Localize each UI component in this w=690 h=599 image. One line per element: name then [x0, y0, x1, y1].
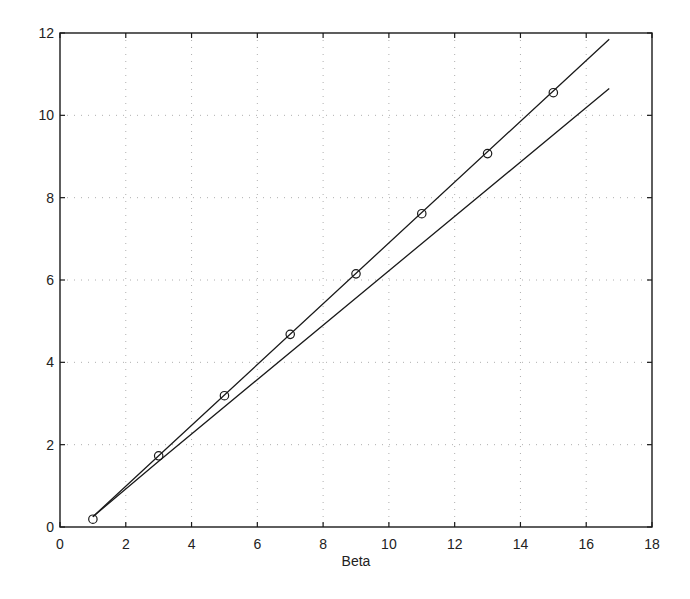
x-tick-label: 0: [56, 536, 64, 552]
x-axis-label: Beta: [342, 553, 371, 569]
y-tick-label: 4: [46, 354, 54, 370]
x-tick-label: 6: [253, 536, 261, 552]
data-point-marker: [549, 88, 557, 96]
grid-lines: [60, 33, 652, 527]
x-tick-label: 8: [319, 536, 327, 552]
x-tick-label: 2: [122, 536, 130, 552]
y-tick-label: 10: [38, 107, 54, 123]
x-tick-label: 18: [644, 536, 660, 552]
series-line: [93, 89, 609, 517]
x-tick-label: 14: [513, 536, 529, 552]
y-tick-label: 6: [46, 272, 54, 288]
axes: [60, 33, 652, 527]
x-tick-label: 4: [188, 536, 196, 552]
series-line: [93, 39, 609, 517]
y-tick-label: 8: [46, 190, 54, 206]
y-tick-label: 12: [38, 25, 54, 41]
series-line-only: [93, 89, 609, 517]
x-tick-label: 12: [447, 536, 463, 552]
x-tick-label: 10: [381, 536, 397, 552]
data-point-marker: [418, 210, 426, 218]
y-tick-label: 2: [46, 437, 54, 453]
series-with-markers: [89, 39, 610, 523]
series-group: [89, 39, 610, 523]
x-tick-label: 16: [578, 536, 594, 552]
plot-frame: [60, 33, 652, 527]
x-axis-ticks: 024681012141618: [56, 33, 660, 552]
line-chart: 024681012141618 024681012 Beta: [0, 0, 690, 599]
y-tick-label: 0: [46, 519, 54, 535]
